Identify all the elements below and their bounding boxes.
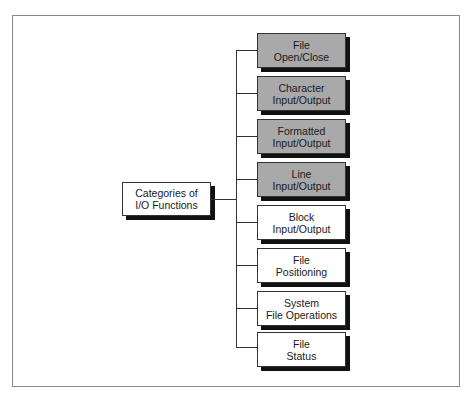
node-label-line-1: Block <box>289 211 315 223</box>
root-label-line-1: Categories of <box>135 187 197 199</box>
node-label-line-2: Input/Output <box>273 137 331 149</box>
node-block-io: Block Input/Output <box>257 205 346 240</box>
node-label-line-2: Positioning <box>276 266 327 278</box>
node-label-line-1: File <box>293 338 310 350</box>
branch-connector <box>236 308 257 309</box>
node-label-line-2: Status <box>287 350 317 362</box>
node-label-line-2: File Operations <box>266 309 337 321</box>
trunk-line <box>236 50 237 347</box>
node-file-positioning: File Positioning <box>257 248 346 283</box>
node-file-status: File Status <box>257 332 346 367</box>
node-line-io: Line Input/Output <box>257 162 346 197</box>
branch-connector <box>236 93 257 94</box>
branch-connector <box>236 347 257 348</box>
node-label-line-2: Input/Output <box>273 223 331 235</box>
branch-connector <box>236 179 257 180</box>
branch-connector <box>236 265 257 266</box>
node-label-line-1: System <box>284 297 319 309</box>
node-label-line-1: Formatted <box>278 125 326 137</box>
root-label-line-2: I/O Functions <box>135 199 197 211</box>
root-connector <box>211 199 237 200</box>
node-system-file-ops: System File Operations <box>257 291 346 326</box>
node-label-line-2: Input/Output <box>273 94 331 106</box>
branch-connector <box>236 50 257 51</box>
node-label-line-1: Line <box>292 168 312 180</box>
node-label-line-1: File <box>293 39 310 51</box>
node-formatted-io: Formatted Input/Output <box>257 119 346 154</box>
branch-connector <box>236 222 257 223</box>
node-label-line-2: Input/Output <box>273 180 331 192</box>
node-character-io: Character Input/Output <box>257 76 346 111</box>
node-label-line-1: File <box>293 254 310 266</box>
branch-connector <box>236 136 257 137</box>
node-label-line-2: Open/Close <box>274 51 329 63</box>
node-file-open-close: File Open/Close <box>257 33 346 68</box>
node-label-line-1: Character <box>278 82 324 94</box>
root-node: Categories of I/O Functions <box>122 182 211 216</box>
